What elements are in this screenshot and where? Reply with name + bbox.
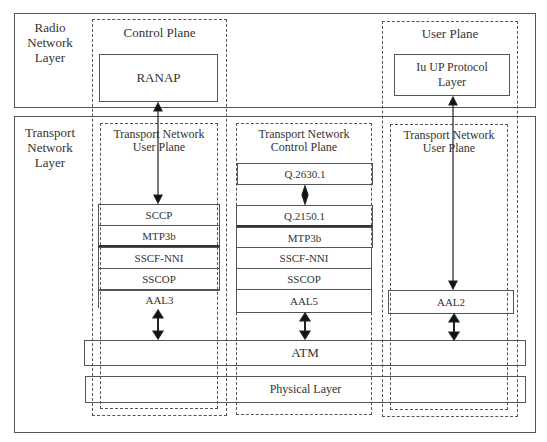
arrows-overlay xyxy=(0,0,547,442)
arrow-down-icon xyxy=(154,195,162,203)
arrow-up-icon xyxy=(153,310,163,318)
arrow-down-icon xyxy=(300,331,310,339)
arrow-down-icon xyxy=(153,331,163,339)
arrow-down-icon xyxy=(449,281,457,289)
arrow-down-icon xyxy=(449,332,459,340)
arrow-up-icon xyxy=(154,103,162,111)
arrow-up-icon xyxy=(449,97,457,105)
arrow-up-icon xyxy=(449,314,459,322)
diamond-arrow-icon xyxy=(302,186,308,204)
arrow-up-icon xyxy=(300,313,310,321)
